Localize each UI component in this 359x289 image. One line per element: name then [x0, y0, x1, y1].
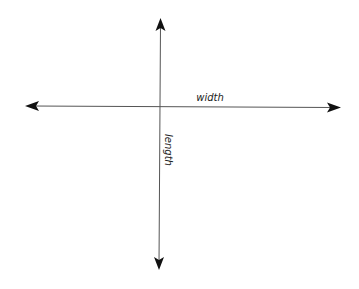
length-label: length: [163, 134, 174, 166]
axes-diagram: width length: [0, 0, 359, 289]
width-label: width: [196, 92, 224, 103]
horizontal-axis: [25, 101, 341, 113]
